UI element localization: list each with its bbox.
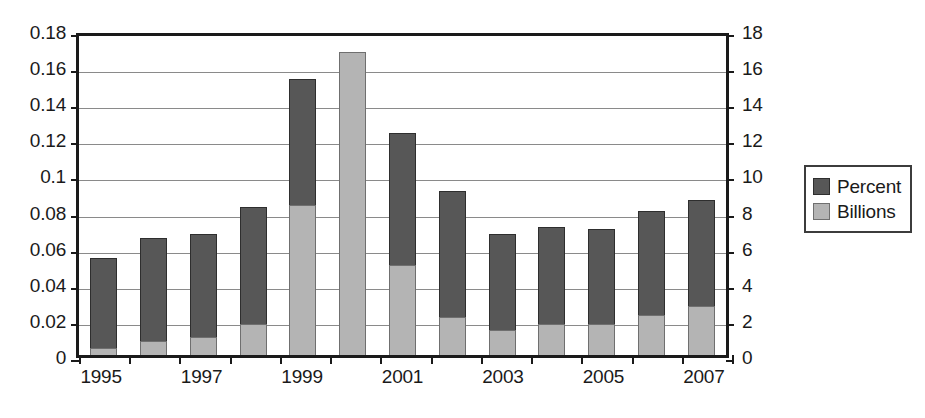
x-tick: [581, 355, 583, 364]
bar-segment-percent[interactable]: [240, 207, 267, 324]
bar-segment-billions[interactable]: [389, 265, 416, 355]
bar-segment-billions[interactable]: [638, 315, 665, 355]
x-tick: [380, 355, 382, 364]
bar-segment-billions[interactable]: [688, 306, 715, 355]
legend-swatch-billions-icon: [813, 203, 830, 220]
bar-segment-billions[interactable]: [90, 348, 117, 355]
bar-2004[interactable]: [538, 227, 565, 355]
bar-segment-billions[interactable]: [190, 337, 217, 355]
y-tick-right: [726, 252, 734, 254]
bar-2001[interactable]: [389, 133, 416, 355]
x-tick: [230, 355, 232, 364]
x-tick: [79, 355, 81, 364]
plot-area: [76, 33, 729, 358]
bar-1998[interactable]: [240, 207, 267, 355]
bar-segment-billions[interactable]: [289, 205, 316, 355]
y-tick-left: [71, 324, 79, 326]
bar-segment-billions[interactable]: [240, 324, 267, 355]
bar-segment-billions[interactable]: [538, 324, 565, 355]
y-axis-right-tick-label: 6: [742, 239, 782, 261]
bar-1996[interactable]: [140, 238, 167, 355]
y-tick-left: [71, 71, 79, 73]
y-axis-right-tick-label: 10: [742, 166, 782, 188]
y-tick-left: [71, 107, 79, 109]
y-axis-right-tick-label: 0: [742, 347, 782, 369]
bar-segment-billions[interactable]: [439, 317, 466, 355]
y-tick-left: [71, 35, 79, 37]
x-tick: [682, 355, 684, 364]
bar-1997[interactable]: [190, 234, 217, 355]
x-axis-label-1997: 1997: [181, 366, 222, 388]
y-tick-right: [726, 71, 734, 73]
x-axis-label-1999: 1999: [281, 366, 322, 388]
y-axis-right-tick-label: 8: [742, 203, 782, 225]
y-tick-right: [726, 143, 734, 145]
bar-slot: [179, 36, 229, 355]
bar-segment-percent[interactable]: [190, 234, 217, 337]
y-tick-right: [726, 107, 734, 109]
bar-slot: [577, 36, 627, 355]
y-axis-right-tick-label: 16: [742, 58, 782, 80]
bar-segment-percent[interactable]: [588, 229, 615, 325]
x-tick: [280, 355, 282, 364]
bar-2000[interactable]: [339, 52, 366, 355]
chart-legend: Percent Billions: [804, 165, 912, 233]
y-axis-right-tick-label: 2: [742, 311, 782, 333]
legend-label-percent: Percent: [837, 176, 901, 198]
bar-1999[interactable]: [289, 79, 316, 355]
bar-2007[interactable]: [688, 200, 715, 355]
bar-segment-percent[interactable]: [538, 227, 565, 325]
bar-slot: [378, 36, 428, 355]
y-axis-left-tick-label: 0.12: [4, 130, 66, 152]
y-axis-left-tick-label: 0: [4, 347, 66, 369]
bar-segment-percent[interactable]: [489, 234, 516, 330]
legend-item-percent[interactable]: Percent: [813, 174, 901, 199]
y-axis-left-labels: 00.020.040.060.080.10.120.140.160.18: [0, 33, 66, 358]
bar-segment-percent[interactable]: [90, 258, 117, 348]
bar-slot: [278, 36, 328, 355]
bar-1995[interactable]: [90, 258, 117, 356]
x-axis-label-2005: 2005: [583, 366, 624, 388]
bar-segment-percent[interactable]: [289, 79, 316, 205]
bar-segment-percent[interactable]: [688, 200, 715, 307]
x-axis-label-2003: 2003: [482, 366, 523, 388]
x-tick: [330, 355, 332, 364]
y-tick-right: [726, 216, 734, 218]
x-tick: [431, 355, 433, 364]
y-tick-left: [71, 143, 79, 145]
bar-slot: [328, 36, 378, 355]
bar-group: [79, 36, 726, 355]
y-axis-left-tick-label: 0.18: [4, 22, 66, 44]
y-tick-left: [71, 288, 79, 290]
y-axis-left-tick-label: 0.14: [4, 94, 66, 116]
y-axis-right-tick-label: 14: [742, 94, 782, 116]
y-axis-left-tick-label: 0.08: [4, 203, 66, 225]
y-tick-left: [71, 252, 79, 254]
bar-2003[interactable]: [489, 234, 516, 355]
bar-segment-billions[interactable]: [339, 52, 366, 355]
bar-2006[interactable]: [638, 211, 665, 355]
bar-2005[interactable]: [588, 229, 615, 355]
x-tick: [129, 355, 131, 364]
bar-segment-percent[interactable]: [638, 211, 665, 316]
y-tick-right: [726, 179, 734, 181]
legend-item-billions[interactable]: Billions: [813, 199, 901, 224]
bar-segment-billions[interactable]: [140, 341, 167, 355]
y-axis-left-tick-label: 0.1: [4, 166, 66, 188]
bar-2002[interactable]: [439, 191, 466, 355]
x-tick: [732, 355, 734, 364]
y-tick-left: [71, 179, 79, 181]
y-axis-right-labels: 024681012141618: [742, 33, 786, 358]
y-tick-left: [71, 360, 79, 362]
legend-swatch-percent-icon: [813, 178, 830, 195]
bar-segment-billions[interactable]: [588, 324, 615, 355]
bar-segment-billions[interactable]: [489, 330, 516, 355]
bar-slot: [676, 36, 726, 355]
chart-page: 00.020.040.060.080.10.120.140.160.18 024…: [0, 0, 925, 418]
bar-segment-percent[interactable]: [439, 191, 466, 317]
bar-slot: [626, 36, 676, 355]
bar-slot: [527, 36, 577, 355]
bar-segment-percent[interactable]: [140, 238, 167, 341]
bar-slot: [129, 36, 179, 355]
bar-segment-percent[interactable]: [389, 133, 416, 265]
